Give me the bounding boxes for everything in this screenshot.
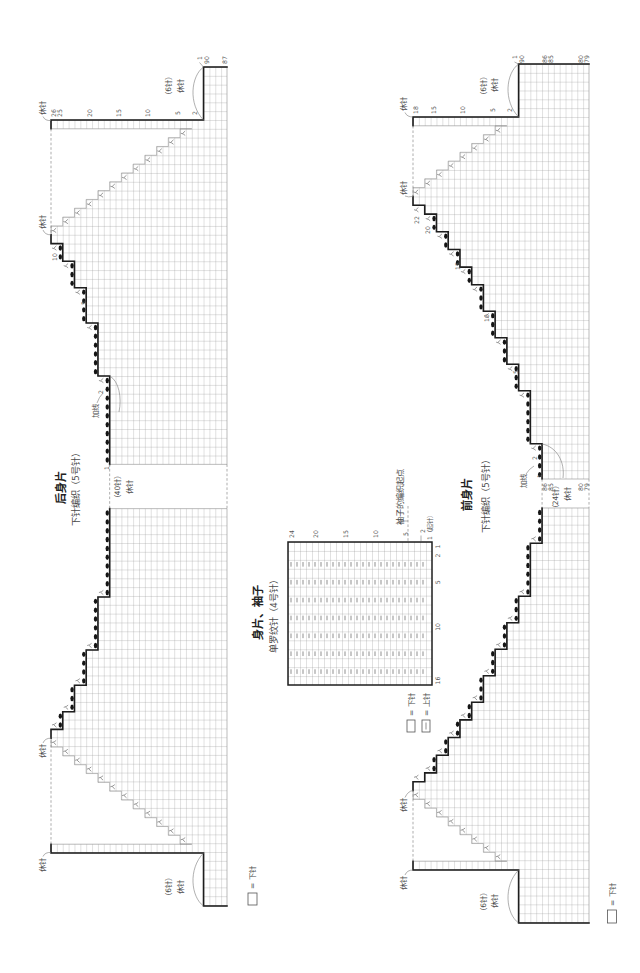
held-stitches-label: 休针 [399, 797, 408, 812]
front-piece-subtitle: 下针编织（5号针） [480, 455, 491, 533]
back-piece-title: 后身片 [54, 471, 68, 504]
join-yarn-label: 加线 [519, 473, 528, 488]
cast-on-dot-icon [444, 242, 447, 247]
cast-on-dot-icon [70, 272, 73, 277]
held-stitches-label: 休针 [38, 743, 47, 758]
cast-on-dot-icon [106, 395, 109, 400]
cast-on-dot-icon [526, 419, 529, 424]
stitch-number-label: 5 [434, 580, 441, 584]
row-number-label: 25 [56, 109, 63, 117]
rib-chart-subtitle: 单罗纹针（4号针） [268, 575, 279, 653]
cast-on-dot-icon [82, 289, 85, 294]
stitch-number-label: 10 [434, 623, 441, 631]
cast-on-dot-icon [479, 286, 482, 291]
stitch-count-label: （6针） [479, 73, 488, 99]
stitch-number-label: 2 [434, 553, 441, 557]
cast-on-dot-icon [106, 448, 109, 453]
row-number-label: 10 [144, 109, 151, 117]
cast-on-dot-icon [59, 254, 62, 259]
held-stitches-label: 休针 [490, 893, 499, 908]
row-number-label: 20 [424, 226, 431, 234]
cast-on-dot-icon [94, 325, 97, 330]
row-number-label: 90 [518, 55, 525, 63]
cast-on-dot-icon [538, 463, 541, 468]
knit-stitch-box-icon [248, 893, 257, 905]
row-number-label: 2 [506, 108, 513, 112]
held-stitches-label: 休针 [399, 180, 408, 195]
row-number-label: 79 [583, 55, 590, 63]
row-number-label: 20 [312, 530, 319, 538]
row-number-label: 1 [511, 55, 518, 59]
stitch-number-label: 1 [434, 544, 441, 548]
row-number-label: 15 [454, 262, 461, 270]
held-stitches-label: 休针 [125, 479, 134, 494]
cast-on-dot-icon [94, 360, 97, 365]
cast-on-dot-icon [503, 348, 506, 353]
cast-on-dot-icon [491, 331, 494, 336]
cast-on-dot-icon [106, 431, 109, 436]
cast-on-dot-icon [106, 387, 109, 392]
held-stitches-label: 休针 [490, 77, 499, 92]
cast-on-dot-icon [94, 369, 97, 374]
cast-on-dot-icon [94, 351, 97, 356]
cast-on-dot-icon [526, 401, 529, 406]
row-number-label: 5 [174, 111, 181, 115]
row-number-label: 20 [86, 109, 93, 117]
held-stitches-label: 休针 [38, 857, 47, 872]
cast-on-dot-icon [432, 216, 435, 221]
cast-on-dot-icon [468, 269, 471, 274]
knit-legend-label: = 下针 [608, 882, 617, 906]
cast-on-dot-icon [59, 245, 62, 250]
held-stitches-label: 休针 [38, 100, 47, 115]
held-stitches-label: 休针 [38, 214, 47, 229]
cast-on-dot-icon [526, 428, 529, 433]
cast-on-dot-icon [503, 339, 506, 344]
cast-on-dot-icon [526, 392, 529, 397]
front-legend: = 下针 [608, 882, 617, 923]
cast-on-dot-icon [526, 410, 529, 415]
cast-on-dot-icon [106, 422, 109, 427]
cast-on-dot-icon [468, 278, 471, 283]
row-number-label: 79 [583, 483, 590, 491]
row-number-label: 87 [221, 56, 228, 64]
row-number-label: 5 [489, 108, 496, 112]
stitch-number-label: 16 [434, 677, 441, 685]
cast-on-dot-icon [503, 357, 506, 362]
held-stitches-label: 休针 [399, 875, 408, 890]
knit-legend-label: = 下针 [407, 692, 416, 716]
rib-grid [288, 542, 432, 685]
row-number-label: 1 [196, 56, 203, 60]
held-stitches-label: 休针 [176, 879, 185, 894]
cast-on-dot-icon [479, 295, 482, 300]
cast-on-dot-icon [106, 440, 109, 445]
row-number-label: 1 [536, 474, 543, 478]
row-number-label: 24 [288, 530, 295, 538]
stitch-count-label: （24针） [551, 482, 560, 512]
cast-on-dot-icon [491, 322, 494, 327]
cast-on-dot-icon [94, 334, 97, 339]
cast-on-dot-icon [106, 457, 109, 462]
sleeve-start-label: 袖子的编织起点 [395, 469, 405, 525]
cast-on-dot-icon [82, 316, 85, 321]
cast-on-row-label: 1（起针） [426, 512, 434, 540]
row-number-label: 5 [80, 301, 87, 305]
cast-on-dot-icon [106, 378, 109, 383]
cast-on-dot-icon [444, 233, 447, 238]
cast-on-dot-icon [106, 413, 109, 418]
row-number-label: 2 [191, 111, 198, 115]
cast-on-dot-icon [456, 251, 459, 256]
front-piece-title: 前身片 [460, 478, 474, 511]
rib-chart-title: 身片、袖子 [251, 585, 265, 640]
row-number-label: 5 [402, 532, 409, 536]
row-number-label: 15 [115, 109, 122, 117]
cast-on-dot-icon [515, 375, 518, 380]
row-number-label: 10 [459, 106, 466, 114]
row-number-label: 18 [412, 106, 419, 114]
held-stitches-label: 休针 [563, 486, 572, 501]
cast-on-dot-icon [491, 313, 494, 318]
stitch-count-label: （6针） [164, 73, 173, 99]
row-number-label: 90 [203, 56, 210, 64]
knit-stitch-box-icon [407, 720, 415, 732]
join-yarn-label: 加线 [91, 403, 100, 418]
row-number-label: 15 [430, 106, 437, 114]
